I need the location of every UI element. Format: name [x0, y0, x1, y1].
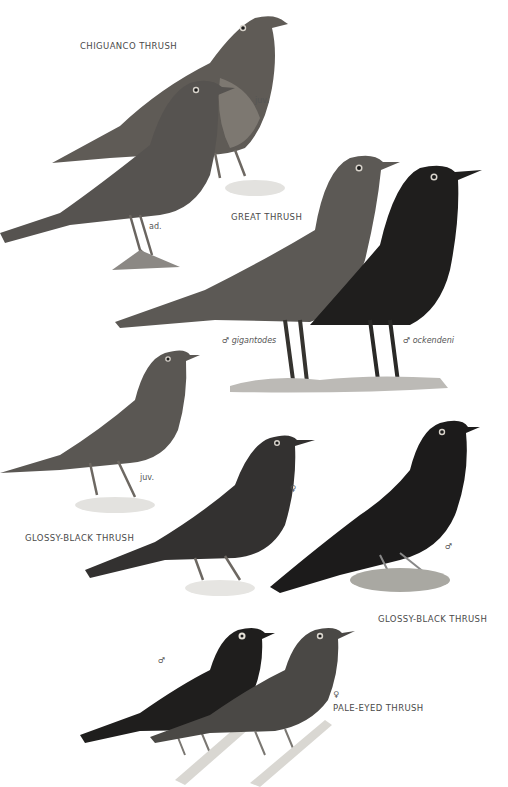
pale-eyed-thrush-female-illustration — [150, 625, 355, 785]
glossy-black-thrush-male-illustration — [270, 415, 480, 595]
species-label-pale-eyed-thrush: PALE-EYED THRUSH — [333, 703, 424, 713]
subspecies-name: gigantodes — [232, 336, 277, 345]
figure-note-juv: juv. — [255, 96, 269, 105]
subspecies-name: ockendeni — [413, 336, 454, 345]
field-guide-plate: CHIGUANCO THRUSH juv. ad. GREAT THRUSH ♂… — [0, 0, 508, 787]
female-symbol: ♀ — [333, 690, 339, 699]
figure-note-ockendeni: ♂ ockendeni — [403, 336, 454, 345]
great-thrush-ockendeni-illustration — [310, 160, 490, 390]
male-symbol: ♂ — [222, 336, 229, 345]
male-symbol: ♂ — [445, 542, 452, 551]
ground-illustration — [230, 372, 450, 394]
figure-note-gigantodes: ♂ gigantodes — [222, 336, 276, 345]
species-label-glossy-black-thrush-male: GLOSSY-BLACK THRUSH — [378, 614, 487, 624]
species-label-glossy-black-thrush: GLOSSY-BLACK THRUSH — [25, 533, 134, 543]
male-symbol: ♂ — [403, 336, 410, 345]
